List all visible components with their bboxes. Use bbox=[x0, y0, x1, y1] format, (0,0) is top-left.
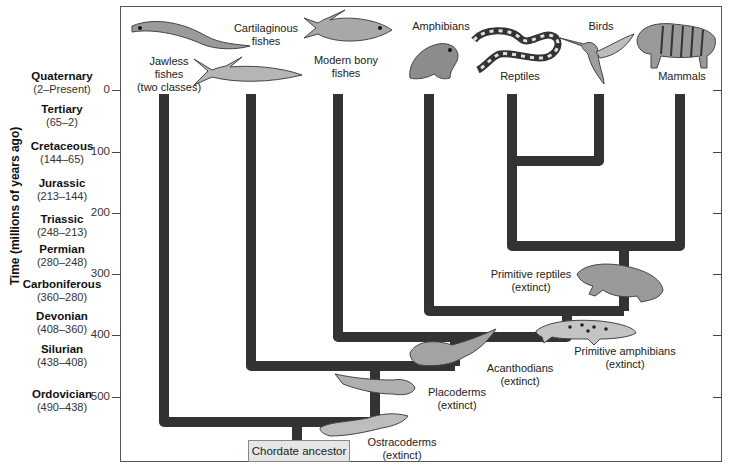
label-ostracoderms: Ostracoderms (extinct) bbox=[364, 436, 440, 462]
shark-icon bbox=[190, 55, 305, 91]
label-line: (two classes) bbox=[134, 81, 204, 94]
label-line: Placoderms bbox=[422, 386, 492, 399]
frog-icon bbox=[404, 38, 464, 83]
label-jawless-fishes: Jawless fishes (two classes) bbox=[134, 55, 204, 94]
label-line: fishes bbox=[134, 68, 204, 81]
label-mammals: Mammals bbox=[652, 70, 712, 83]
label-line: Acanthodians bbox=[482, 362, 558, 375]
label-line: Modern bony bbox=[306, 54, 386, 67]
label-line: (extinct) bbox=[488, 281, 574, 294]
label-line: Jawless bbox=[134, 55, 204, 68]
placoderm-icon bbox=[333, 370, 418, 400]
branch-birds bbox=[512, 94, 599, 161]
primitive-reptile-icon bbox=[575, 256, 670, 306]
label-acanthodians: Acanthodians (extinct) bbox=[482, 362, 558, 388]
label-line: (extinct) bbox=[422, 399, 492, 412]
label-cartilaginous-fishes: Cartilaginous fishes bbox=[226, 22, 306, 48]
label-primitive-reptiles: Primitive reptiles (extinct) bbox=[488, 268, 574, 294]
label-line: Mammals bbox=[652, 70, 712, 83]
label-line: fishes bbox=[306, 67, 386, 80]
label-placoderms: Placoderms (extinct) bbox=[422, 386, 492, 412]
label-line: (extinct) bbox=[482, 375, 558, 388]
label-line: Primitive amphibians bbox=[570, 345, 680, 358]
label-line: fishes bbox=[226, 35, 306, 48]
label-line: (extinct) bbox=[570, 358, 680, 371]
label-amphibians: Amphibians bbox=[406, 20, 476, 33]
label-primitive-amphibians: Primitive amphibians (extinct) bbox=[570, 345, 680, 371]
label-line: Birds bbox=[576, 20, 626, 33]
label-modern-bony-fishes: Modern bony fishes bbox=[306, 54, 386, 80]
label-line: Amphibians bbox=[406, 20, 476, 33]
snake-icon bbox=[470, 22, 562, 74]
label-reptiles: Reptiles bbox=[490, 70, 550, 83]
ostracoderm-icon bbox=[318, 408, 413, 438]
hummingbird-icon bbox=[560, 30, 635, 85]
chordate-ancestor-box: Chordate ancestor bbox=[248, 440, 350, 462]
label-line: Primitive reptiles bbox=[488, 268, 574, 281]
label-line: Ostracoderms bbox=[364, 436, 440, 449]
label-birds: Birds bbox=[576, 20, 626, 33]
label-line: Cartilaginous bbox=[226, 22, 306, 35]
branch-bony bbox=[338, 94, 567, 337]
label-line: Reptiles bbox=[490, 70, 550, 83]
tiger-icon bbox=[633, 14, 719, 70]
perch-fish-icon bbox=[300, 8, 395, 48]
label-line: (extinct) bbox=[364, 449, 440, 462]
primitive-amphibian-icon bbox=[534, 317, 639, 347]
